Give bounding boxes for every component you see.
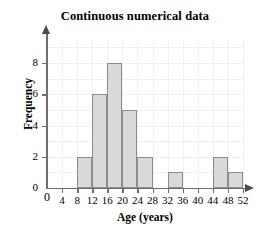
gridline-horizontal <box>47 79 243 80</box>
gridline-horizontal <box>47 47 243 48</box>
histogram-bar <box>92 94 107 188</box>
histogram-bar <box>107 63 122 188</box>
x-axis-arrowhead-icon <box>245 184 254 192</box>
y-axis-tick-label: 0 <box>16 181 38 193</box>
x-axis-tick <box>62 188 63 193</box>
y-axis-arrowhead-icon <box>42 25 50 34</box>
x-axis-tick <box>213 188 214 193</box>
x-axis-tick <box>77 188 78 193</box>
gridline-horizontal <box>47 126 243 127</box>
x-axis-tick <box>168 188 169 193</box>
y-axis-tick <box>42 157 47 158</box>
plot-area <box>47 40 243 188</box>
gridline-horizontal <box>47 94 243 95</box>
x-axis-tick <box>228 188 229 193</box>
histogram-figure: Continuous numerical data 02468 04812162… <box>0 0 270 233</box>
x-axis-tick <box>198 188 199 193</box>
x-axis-tick <box>183 188 184 193</box>
chart-title: Continuous numerical data <box>0 9 270 24</box>
x-axis-tick-label: 52 <box>232 194 254 206</box>
x-axis-line <box>46 188 245 190</box>
histogram-bar <box>168 172 183 188</box>
histogram-bar <box>122 110 137 188</box>
x-axis-tick <box>107 188 108 193</box>
x-axis-title: Age (years) <box>40 211 250 223</box>
histogram-bar <box>213 157 228 188</box>
y-axis-tick <box>42 94 47 95</box>
x-axis-tick <box>243 188 244 193</box>
x-axis-tick <box>153 188 154 193</box>
y-axis-tick-label: 2 <box>16 150 38 162</box>
gridline-horizontal <box>47 141 243 142</box>
gridline-vertical <box>243 40 244 188</box>
x-axis-tick <box>122 188 123 193</box>
histogram-bar <box>137 157 152 188</box>
y-axis-tick <box>42 126 47 127</box>
x-axis-tick <box>92 188 93 193</box>
y-axis-line <box>46 33 48 188</box>
histogram-bar <box>228 172 243 188</box>
gridline-horizontal <box>47 63 243 64</box>
histogram-bar <box>77 157 92 188</box>
gridline-horizontal <box>47 110 243 111</box>
y-axis-tick <box>42 63 47 64</box>
y-axis-title: Frequency <box>22 62 34 146</box>
x-axis-tick <box>137 188 138 193</box>
